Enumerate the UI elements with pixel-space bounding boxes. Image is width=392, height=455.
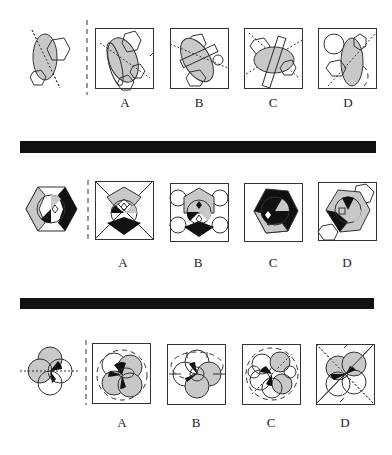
row1-question-figure: [20, 20, 90, 100]
row1-option-d-figure[interactable]: [318, 28, 378, 90]
row2-divider-dashed: [86, 180, 90, 240]
row1-option-a-figure[interactable]: [95, 28, 155, 90]
row3-option-d-figure[interactable]: [316, 344, 376, 406]
row2-option-a-figure[interactable]: [95, 181, 155, 241]
row3-option-d-label: D: [335, 415, 355, 431]
row2-option-d-figure[interactable]: [318, 182, 378, 244]
row3-option-b-label: B: [186, 415, 206, 431]
row1-option-c-label: C: [263, 95, 283, 111]
row3-option-c-figure[interactable]: [242, 344, 302, 406]
row1-option-a-label: A: [115, 95, 135, 111]
row2-option-d-label: D: [337, 255, 357, 271]
row3-option-c-label: C: [261, 415, 281, 431]
row2-option-c-figure[interactable]: [244, 183, 304, 243]
row3-divider-dashed: [84, 340, 88, 405]
row1-divider-dashed: [85, 20, 89, 95]
row1-option-c-figure[interactable]: [244, 28, 304, 90]
row2-option-b-label: B: [188, 255, 208, 271]
row1-option-b-label: B: [189, 95, 209, 111]
row1-option-d-label: D: [338, 95, 358, 111]
row2-option-a-label: A: [113, 255, 133, 271]
row3-option-b-figure[interactable]: [167, 344, 227, 406]
row2-question-figure: [25, 185, 80, 235]
row1-option-b-figure[interactable]: [170, 28, 230, 90]
row2-option-b-figure[interactable]: [170, 183, 230, 243]
row2-option-c-label: C: [263, 255, 283, 271]
row3-option-a-figure[interactable]: [92, 343, 152, 405]
separator-bar-1: [20, 141, 376, 153]
separator-bar-2: [20, 298, 374, 309]
row3-question-figure: [20, 345, 80, 405]
row3-option-a-label: A: [112, 415, 132, 431]
